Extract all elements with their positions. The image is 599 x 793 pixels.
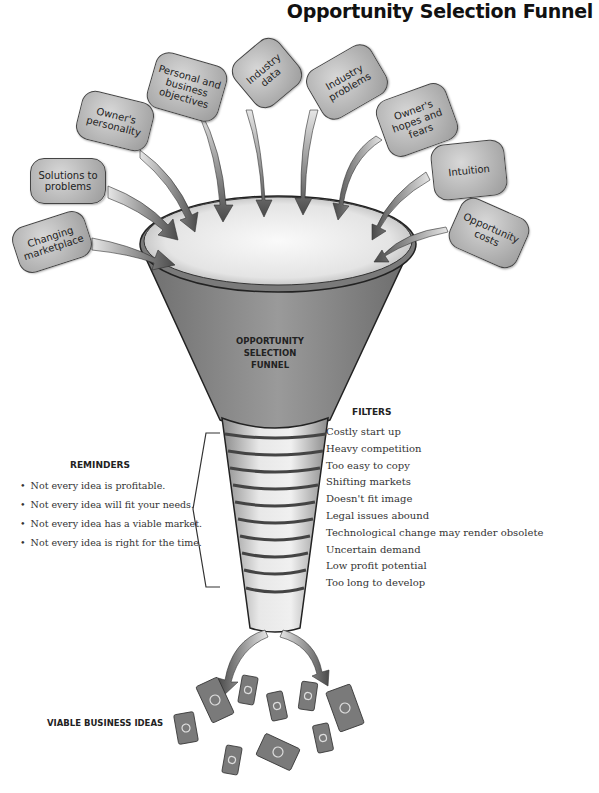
- filter-tube: [222, 418, 328, 632]
- filter-item: Costly start up: [326, 424, 543, 441]
- filters-heading: FILTERS: [352, 407, 391, 417]
- filter-item: Shifting markets: [326, 474, 543, 491]
- filter-item: Legal issues abound: [326, 508, 543, 525]
- funnel-label: OPPORTUNITY SELECTION FUNNEL: [215, 335, 325, 371]
- filter-item: Too long to develop: [326, 575, 543, 592]
- filter-item: Low profit potential: [326, 558, 543, 575]
- filter-item: Doesn't fit image: [326, 491, 543, 508]
- filters-list: Costly start up Heavy competition Too ea…: [326, 424, 543, 592]
- arrow-output-right: [280, 630, 329, 686]
- filter-item: Technological change may render obsolete: [326, 525, 543, 542]
- reminder-item: Not every idea is right for the time.: [20, 533, 202, 552]
- input-bubble-intuition: Intuition: [429, 138, 508, 201]
- reminder-item: Not every idea has a viable market.: [20, 514, 202, 533]
- input-bubble-solutions-to-problems: Solutions to problems: [30, 158, 106, 204]
- filter-item: Too easy to copy: [326, 458, 543, 475]
- viable-business-ideas-label: VIABLE BUSINESS IDEAS: [47, 718, 163, 728]
- money-bills-icon: [174, 675, 365, 775]
- reminder-item: Not every idea is profitable.: [20, 476, 202, 495]
- filter-item: Uncertain demand: [326, 542, 543, 559]
- filter-item: Heavy competition: [326, 441, 543, 458]
- reminders-heading: REMINDERS: [70, 460, 130, 470]
- reminders-list: Not every idea is profitable. Not every …: [20, 476, 202, 552]
- arrow-solutions: [108, 186, 178, 240]
- reminder-item: Not every idea will fit your needs.: [20, 495, 202, 514]
